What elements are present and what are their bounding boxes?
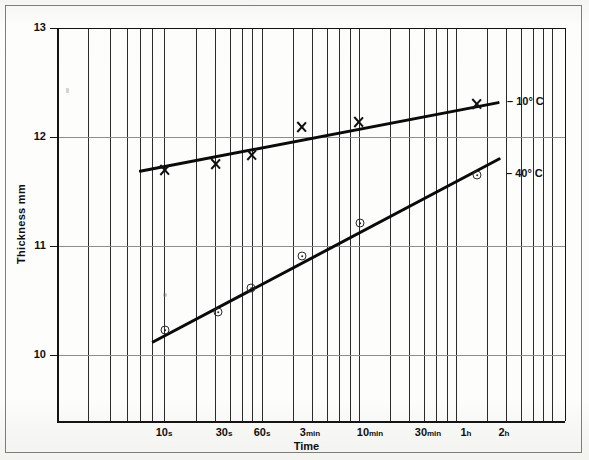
grid-line-horizontal [57, 28, 565, 29]
grid-line-vertical [506, 28, 507, 421]
y-axis-tick [50, 137, 58, 138]
grid-line-vertical [543, 28, 544, 421]
grid-line-vertical [339, 28, 340, 421]
data-point-marker [214, 308, 223, 317]
y-axis-tick-label: 13 [22, 22, 46, 33]
grid-line-vertical [127, 28, 128, 421]
y-axis-tick-label: 12 [22, 131, 46, 142]
chart-page: Thickness mm Time 1312111010s30s60s3min1… [0, 0, 589, 460]
grid-line-vertical [521, 28, 522, 421]
grid-line-vertical [350, 28, 351, 421]
grid-line-vertical [110, 28, 111, 421]
grid-line-horizontal [57, 355, 565, 356]
scan-artifact [66, 88, 69, 93]
data-point-marker [209, 158, 222, 171]
grid-line-vertical [436, 28, 437, 421]
x-axis-tick-label: 2h [498, 426, 509, 440]
x-axis-tick-label: 30s [216, 426, 233, 440]
grid-line-vertical [312, 28, 313, 421]
x-axis-tick-label: 60s [254, 426, 271, 440]
series-label: – 10° C [507, 95, 544, 107]
plot-area [57, 28, 565, 355]
y-axis-title: Thickness mm [15, 164, 27, 284]
grid-line-vertical [552, 28, 553, 421]
x-axis-tick-label: 10min [357, 426, 383, 440]
x-axis-tick-label: 3min [300, 426, 320, 440]
grid-line-vertical [164, 28, 165, 421]
grid-line-vertical [215, 28, 216, 421]
grid-line-vertical [533, 28, 534, 421]
data-point-marker [470, 98, 483, 111]
grid-line-vertical [487, 28, 488, 421]
y-axis-tick [50, 355, 58, 356]
data-point-marker [356, 219, 365, 228]
data-point-marker [158, 164, 171, 177]
x-axis-tick-label: 1h [460, 426, 471, 440]
data-point-marker [295, 121, 308, 134]
data-point-marker [245, 149, 258, 162]
grid-line-vertical [565, 28, 566, 421]
grid-line-vertical [390, 28, 391, 421]
grid-line-horizontal [57, 246, 565, 247]
grid-line-vertical [152, 28, 153, 421]
grid-line-vertical [409, 28, 410, 421]
y-axis-tick-label: 11 [22, 240, 46, 251]
x-axis-tick-label: 30min [415, 426, 441, 440]
grid-line-vertical [262, 28, 263, 421]
data-point-marker [473, 171, 482, 180]
y-axis-tick [50, 28, 58, 29]
grid-line-vertical [447, 28, 448, 421]
grid-line-vertical [327, 28, 328, 421]
data-point-marker [161, 326, 170, 335]
data-point-marker [298, 252, 307, 261]
grid-line-vertical [140, 28, 141, 421]
grid-line-vertical [242, 28, 243, 421]
grid-line-vertical [230, 28, 231, 421]
grid-line-vertical [456, 28, 457, 421]
grid-line-vertical [88, 28, 89, 421]
scan-artifact [163, 293, 167, 297]
series-label: – 40° C [506, 167, 543, 179]
x-axis-tick-label: 10s [156, 426, 173, 440]
grid-line-vertical [252, 28, 253, 421]
grid-line-vertical [424, 28, 425, 421]
data-point-marker [352, 116, 365, 129]
data-point-marker [247, 284, 256, 293]
y-axis-tick-label: 10 [22, 349, 46, 360]
x-axis [57, 421, 565, 423]
grid-line-vertical [196, 28, 197, 421]
grid-line-vertical [293, 28, 294, 421]
x-axis-title: Time [0, 440, 589, 452]
y-axis [57, 28, 59, 422]
y-axis-tick [50, 246, 58, 247]
